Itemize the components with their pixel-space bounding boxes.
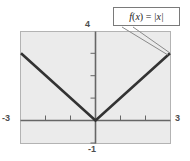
callout-function-name: f	[129, 11, 132, 22]
y-axis-max-label: 4	[85, 20, 90, 29]
callout-expression: |x|	[154, 11, 164, 22]
function-callout-label: f(x) = |x|	[129, 12, 164, 22]
callout-equals: =	[143, 11, 154, 22]
x-axis-min-label: -3	[2, 114, 10, 123]
x-axis-max-label: 3	[175, 114, 180, 123]
callout-variable: x	[135, 11, 139, 22]
function-callout-box: f(x) = |x|	[113, 7, 180, 26]
absolute-value-function-figure: 4 -3 3 -1 f(x) = |x|	[0, 0, 190, 161]
y-axis-min-label: -1	[88, 145, 96, 154]
